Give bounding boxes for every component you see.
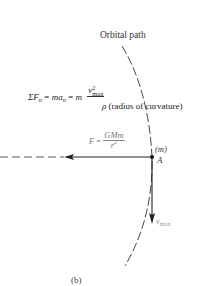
orbital-path-label: Orbital path	[100, 31, 146, 41]
orbital-path-curve	[122, 46, 152, 266]
figure-caption: (b)	[71, 276, 82, 285]
mass-label: (m)	[155, 145, 167, 154]
point-a-label: A	[157, 156, 163, 165]
normal-force-equation: ΣFn = man = m v2max	[28, 93, 104, 104]
gravity-force-equation: F = GMm r2	[89, 133, 125, 151]
velocity-squared-numerator: v2max	[87, 86, 104, 97]
velocity-max-label: vmax	[156, 218, 171, 226]
radius-of-curvature-label: ρ (radius of curvature)	[102, 102, 183, 111]
point-a-dot	[150, 155, 154, 159]
sum-force: ΣFn	[28, 92, 42, 102]
gravity-fraction: GMm r2	[103, 131, 124, 149]
